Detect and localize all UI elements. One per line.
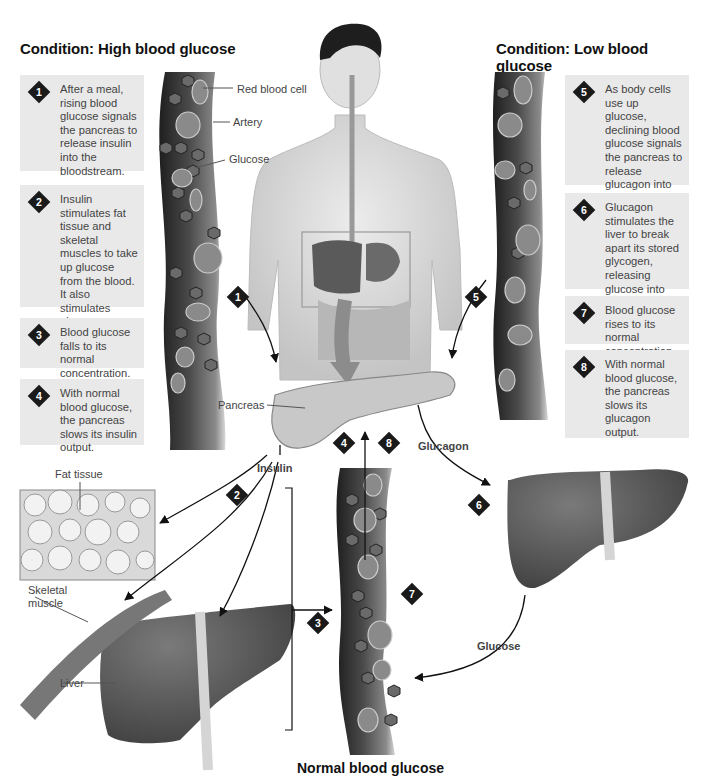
label-artery: Artery: [233, 116, 262, 129]
liver-right: [507, 469, 688, 588]
flow-marker-6: 6: [468, 494, 490, 516]
flow-marker-8: 8: [378, 432, 400, 454]
pancreas: [272, 372, 455, 448]
label-glucagon: Glucagon: [418, 440, 469, 452]
flow-marker-3: 3: [307, 612, 329, 634]
label-liver: Liver: [60, 677, 84, 690]
human-torso: [248, 24, 462, 380]
flow-marker-7: 7: [401, 583, 423, 605]
flow-marker-4: 4: [333, 432, 355, 454]
label-pancreas: Pancreas: [218, 399, 264, 412]
diagram-illustration: [0, 0, 704, 780]
flow-marker-1: 1: [227, 286, 249, 308]
label-insulin: Insulin: [257, 462, 292, 474]
arrow-glucose-release: [415, 595, 525, 678]
arrow-to-fat: [160, 455, 267, 523]
label-skeletal-muscle: Skeletal muscle: [28, 584, 78, 610]
label-glucose-flow: Glucose: [477, 640, 520, 652]
artery-low-glucose: [493, 72, 548, 420]
label-fat-tissue: Fat tissue: [55, 468, 103, 481]
artery-high-glucose: [159, 72, 225, 450]
label-red-blood-cell: Red blood cell: [237, 83, 307, 96]
label-glucose: Glucose: [229, 153, 269, 166]
normal-glucose-title: Normal blood glucose: [297, 760, 444, 776]
flow-marker-5: 5: [465, 286, 487, 308]
flow-marker-2: 2: [226, 484, 248, 506]
